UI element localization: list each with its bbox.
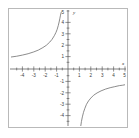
y-tick-label: -1 [60, 79, 65, 84]
curve-left-branch [11, 12, 62, 57]
plot-frame: -4 -3 -2 -1 1 2 3 4 5 -4 -3 -2 -1 1 2 3 … [8, 8, 128, 128]
y-tick-label: 4 [61, 20, 64, 25]
y-tick-label: -2 [60, 91, 65, 96]
curve-right-branch [81, 85, 125, 126]
y-tick-label: 5 [61, 10, 64, 15]
y-tick-label: -3 [60, 102, 65, 107]
figure-container: -4 -3 -2 -1 1 2 3 4 5 -4 -3 -2 -1 1 2 3 … [0, 0, 139, 138]
y-tick-label: -4 [60, 113, 65, 118]
x-tick-label: -4 [20, 73, 25, 78]
x-tick-label: -2 [43, 73, 48, 78]
x-tick-label: 3 [101, 73, 104, 78]
x-tick-label: -3 [32, 73, 37, 78]
x-tick-label: -1 [55, 73, 60, 78]
x-tick-label: 4 [112, 73, 115, 78]
x-axis-label: x [121, 61, 125, 66]
function-graph: -4 -3 -2 -1 1 2 3 4 5 -4 -3 -2 -1 1 2 3 … [9, 9, 127, 127]
y-tick-label: 1 [61, 54, 64, 59]
x-tick-label: 2 [90, 73, 93, 78]
x-tick-labels: -4 -3 -2 -1 1 2 3 4 5 [20, 73, 126, 78]
y-tick-label: 2 [61, 43, 64, 48]
y-axis-label: y [72, 10, 76, 15]
x-tick-label: 5 [123, 73, 126, 78]
y-tick-label: 3 [61, 32, 64, 37]
y-tick-labels: -4 -3 -2 -1 1 2 3 4 5 [60, 10, 65, 119]
x-tick-label: 1 [78, 73, 81, 78]
